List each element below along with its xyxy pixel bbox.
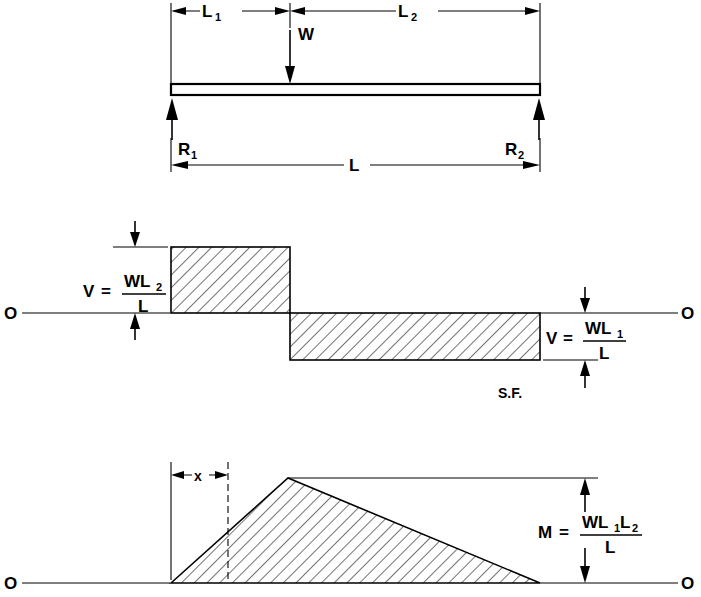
dim-label-l1: L (202, 2, 212, 21)
load-label-w: W (298, 25, 315, 44)
dim-label-l1-subscript: 1 (215, 11, 221, 23)
moment-symbol: M (538, 523, 552, 542)
moment-denominator: L (605, 538, 615, 557)
shear-left-numerator-subscript: 2 (156, 281, 162, 293)
moment-numerator-b-subscript: 2 (632, 522, 638, 534)
shear-right-numerator-subscript: 1 (617, 328, 623, 340)
moment-x-arrow-left (171, 471, 184, 479)
shear-left-equals: = (101, 282, 111, 301)
shear-right-arrow-bottom-head (580, 360, 590, 376)
reaction-right-subscript: 2 (518, 149, 524, 161)
shear-right-arrow-top-head (580, 298, 590, 313)
moment-numerator-a: WL (582, 513, 608, 532)
reaction-right-label: R (505, 140, 517, 159)
shear-left-numerator: WL (124, 272, 150, 291)
reaction-left-subscript: 1 (191, 149, 197, 161)
reaction-right-head (533, 98, 545, 120)
dim-arrow-l1-left (171, 7, 186, 15)
shear-left-arrow-top-head (130, 232, 140, 247)
shear-negative-fill (290, 313, 540, 360)
moment-numerator-b: L (620, 513, 630, 532)
shear-positive-fill (171, 247, 290, 313)
load-arrow-head (285, 66, 295, 84)
shear-right-symbol: V (546, 329, 558, 348)
figure-canvas: L 1 L 2 W R 1 R 2 (0, 0, 701, 597)
moment-x-arrow-right (215, 471, 228, 479)
bending-moment-panel: O O x M = WL 1 (4, 462, 694, 593)
dim-arrow-l2-right (525, 7, 540, 15)
shear-zero-left-label: O (4, 304, 17, 323)
beam-body (171, 84, 540, 95)
dim-arrow-l1-right (275, 7, 290, 15)
shear-right-numerator: WL (585, 319, 611, 338)
shear-caption: S.F. (498, 385, 522, 401)
moment-x-label: x (194, 468, 202, 484)
moment-zero-right-label: O (681, 574, 694, 593)
moment-zero-left-label: O (4, 574, 17, 593)
shear-right-denominator: L (599, 344, 609, 363)
dim-label-span: L (349, 156, 359, 175)
moment-triangle-fill (171, 478, 540, 583)
shear-right-equals: = (563, 329, 573, 348)
shear-force-panel: O O V = WL 2 L (4, 221, 694, 401)
moment-arrow-bottom-head (580, 566, 590, 583)
shear-left-denominator: L (138, 297, 148, 316)
beam-shear-moment-diagram: L 1 L 2 W R 1 R 2 (0, 0, 701, 597)
shear-zero-right-label: O (681, 304, 694, 323)
moment-equals: = (559, 523, 569, 542)
reaction-left-head (166, 98, 178, 120)
dim-label-l2-subscript: 2 (411, 11, 417, 23)
beam-panel: L 1 L 2 W R 1 R 2 (166, 1, 545, 175)
shear-left-symbol: V (83, 282, 95, 301)
dim-label-l2: L (398, 2, 408, 21)
reaction-left-label: R (178, 140, 190, 159)
moment-arrow-top-head (580, 478, 590, 495)
dim-arrow-span-left (171, 161, 188, 169)
dim-arrow-span-right (523, 161, 540, 169)
dim-arrow-l2-left (290, 7, 305, 15)
